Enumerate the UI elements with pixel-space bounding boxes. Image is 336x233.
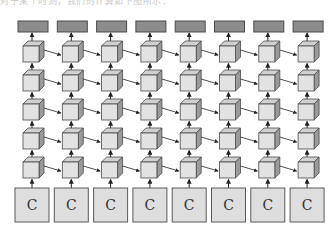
cube-cell [62,70,83,91]
input-label: C [145,197,156,213]
output-box [97,21,127,32]
arrow-right-icon [44,137,61,142]
arrow-right-icon [162,79,179,84]
cube-cell [298,70,319,91]
cube-cell [298,157,319,178]
arrow-right-icon [201,137,218,142]
arrow-right-icon [44,166,61,171]
arrow-right-icon [162,137,179,142]
arrow-right-icon [280,166,297,171]
cube-cell [220,128,241,149]
output-box [18,21,48,32]
arrow-right-icon [162,108,179,113]
cube-cell [141,41,162,62]
arrow-right-icon [83,50,100,55]
cube-cell [220,70,241,91]
cube-cell [141,70,162,91]
arrow-right-icon [123,137,140,142]
cube-cell [259,157,280,178]
arrow-right-icon [241,108,258,113]
arrow-right-icon [162,166,179,171]
arrow-right-icon [280,50,297,55]
cube-cell [259,70,280,91]
cube-cell [259,41,280,62]
arrow-right-icon [83,108,100,113]
input-label: C [302,197,313,213]
output-box [57,21,87,32]
cube-cell [23,41,44,62]
cube-cell [23,128,44,149]
cube-cell [23,99,44,120]
input-label: C [66,197,77,213]
output-box [254,21,284,32]
cube-cell [62,41,83,62]
cube-cell [298,41,319,62]
input-label: C [223,197,234,213]
cube-cell [141,128,162,149]
input-label: C [262,197,273,213]
arrow-right-icon [83,137,100,142]
cube-cell [180,70,201,91]
cube-cell [62,128,83,149]
arrow-right-icon [241,50,258,55]
arrow-right-icon [201,108,218,113]
arrow-right-icon [162,50,179,55]
cube-cell [180,99,201,120]
column-8: C [290,21,324,222]
output-box [175,21,205,32]
input-label: C [27,197,38,213]
output-box [215,21,245,32]
cube-cell [62,157,83,178]
arrow-right-icon [123,50,140,55]
arrow-right-icon [44,108,61,113]
arrow-right-icon [123,79,140,84]
arrow-right-icon [201,166,218,171]
cube-cell [298,128,319,149]
input-label: C [184,197,195,213]
arrow-right-icon [123,166,140,171]
cube-cell [102,128,123,149]
arrow-right-icon [280,137,297,142]
cube-cell [141,99,162,120]
cube-cell [180,128,201,149]
arrow-right-icon [241,166,258,171]
cube-cell [220,157,241,178]
arrow-right-icon [123,108,140,113]
cube-cell [180,157,201,178]
input-label: C [105,197,116,213]
lstm-grid-diagram: CCCCCCCC [0,0,336,233]
cube-cell [220,99,241,120]
cube-cell [259,128,280,149]
arrow-right-icon [83,79,100,84]
cube-cell [23,157,44,178]
grid-layer: CCCCCCCC [15,21,324,222]
cube-cell [62,99,83,120]
arrow-right-icon [280,79,297,84]
cube-cell [23,70,44,91]
arrow-right-icon [201,50,218,55]
arrow-right-icon [83,166,100,171]
cube-cell [102,99,123,120]
arrow-right-icon [201,79,218,84]
cube-cell [102,157,123,178]
cube-cell [259,99,280,120]
cube-cell [298,99,319,120]
arrow-right-icon [280,108,297,113]
arrow-right-icon [241,137,258,142]
arrow-right-icon [44,50,61,55]
arrow-right-icon [241,79,258,84]
arrow-right-icon [44,79,61,84]
cube-cell [102,70,123,91]
cube-cell [141,157,162,178]
cube-cell [180,41,201,62]
output-box [136,21,166,32]
output-box [293,21,323,32]
cube-cell [220,41,241,62]
cube-cell [102,41,123,62]
